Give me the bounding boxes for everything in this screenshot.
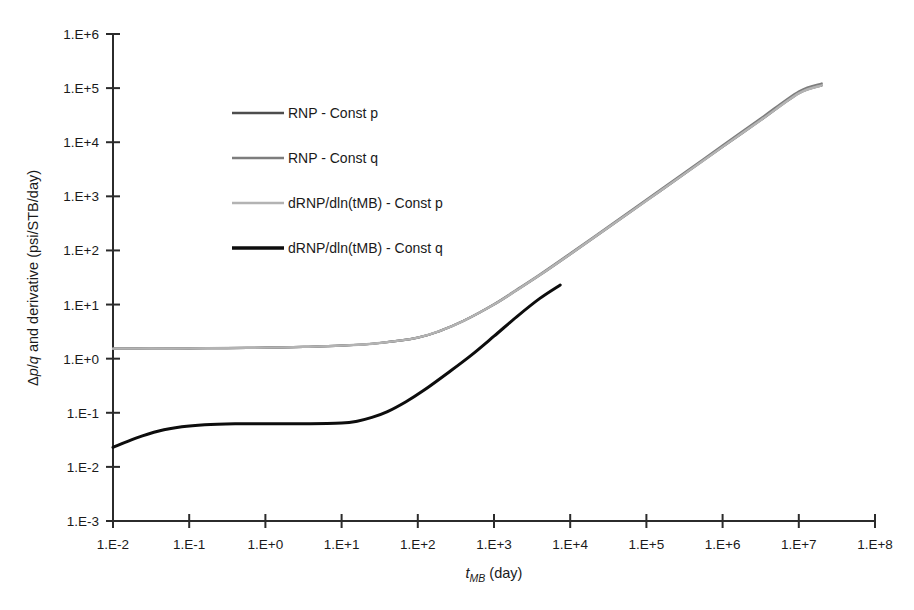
- x-tick-label: 1.E+0: [248, 537, 284, 552]
- x-tick-label: 1.E+1: [324, 537, 360, 552]
- series-line-3: [113, 285, 560, 447]
- x-tick-label: 1.E+4: [552, 537, 588, 552]
- series-group: [113, 83, 822, 447]
- x-tick-label: 1.E-2: [97, 537, 129, 552]
- x-tick-label: 1.E+8: [857, 537, 893, 552]
- legend-item: dRNP/dln(tMB) - Const q: [232, 240, 443, 256]
- x-tick-label: 1.E+7: [781, 537, 817, 552]
- legend-label: RNP - Const p: [288, 105, 378, 121]
- y-tick-label: 1.E+2: [63, 243, 99, 258]
- svg-text:Δp/q and derivative (psi/STB/d: Δp/q and derivative (psi/STB/day): [25, 170, 41, 386]
- x-tick-label: 1.E+2: [400, 537, 436, 552]
- y-tick-label: 1.E+6: [63, 27, 99, 42]
- chart-container: 1.E-31.E-21.E-11.E+01.E+11.E+21.E+31.E+4…: [0, 0, 914, 610]
- y-tick-label: 1.E-1: [67, 406, 99, 421]
- x-tick-label: 1.E+6: [705, 537, 741, 552]
- y-axis-title: Δp/q and derivative (psi/STB/day): [25, 170, 41, 386]
- chart-legend: RNP - Const pRNP - Const qdRNP/dln(tMB) …: [232, 105, 443, 256]
- legend-item: dRNP/dln(tMB) - Const p: [232, 195, 443, 211]
- x-tick-label: 1.E-1: [173, 537, 205, 552]
- x-axis-tick-labels: 1.E-21.E-11.E+01.E+11.E+21.E+31.E+41.E+5…: [97, 537, 893, 552]
- x-tick-label: 1.E+5: [629, 537, 665, 552]
- y-tick-label: 1.E-3: [67, 514, 99, 529]
- y-tick-label: 1.E+4: [63, 135, 99, 150]
- series-line-2: [113, 85, 822, 348]
- legend-label: dRNP/dln(tMB) - Const q: [288, 240, 443, 256]
- y-axis-tick-labels: 1.E-31.E-21.E-11.E+01.E+11.E+21.E+31.E+4…: [63, 27, 99, 529]
- svg-text:tMB (day): tMB (day): [466, 565, 523, 584]
- x-axis-title: tMB (day): [466, 565, 523, 584]
- legend-label: dRNP/dln(tMB) - Const p: [288, 195, 443, 211]
- y-tick-label: 1.E+5: [63, 81, 99, 96]
- log-log-plot: 1.E-31.E-21.E-11.E+01.E+11.E+21.E+31.E+4…: [0, 0, 914, 610]
- series-line-0: [113, 85, 822, 348]
- axes-group: [113, 34, 875, 521]
- y-tick-label: 1.E-2: [67, 460, 99, 475]
- y-tick-label: 1.E+3: [63, 189, 99, 204]
- series-line-1: [113, 83, 822, 348]
- y-tick-label: 1.E+1: [63, 298, 99, 313]
- x-tick-label: 1.E+3: [476, 537, 512, 552]
- y-tick-label: 1.E+0: [63, 352, 99, 367]
- legend-item: RNP - Const p: [232, 105, 378, 121]
- legend-label: RNP - Const q: [288, 150, 378, 166]
- legend-item: RNP - Const q: [232, 150, 378, 166]
